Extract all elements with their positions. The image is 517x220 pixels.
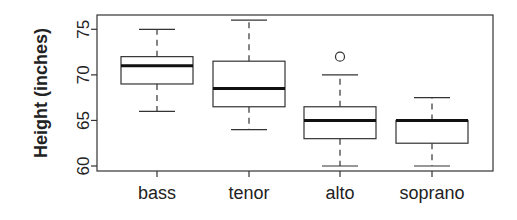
iqr-box — [121, 57, 193, 84]
y-tick-label: 65 — [74, 111, 93, 130]
x-tick-label-soprano: soprano — [399, 183, 464, 203]
plot-border — [97, 15, 493, 171]
chart-canvas: 60657075 basstenoraltosoprano Height (in… — [0, 0, 517, 220]
iqr-box — [213, 61, 285, 107]
iqr-box — [304, 107, 376, 139]
outlier-point — [336, 52, 345, 61]
box-tenor — [213, 20, 285, 129]
boxplot-chart: 60657075 basstenoraltosoprano Height (in… — [0, 0, 517, 220]
box-soprano — [396, 98, 468, 166]
x-axis: basstenoraltosoprano — [138, 171, 465, 203]
box-alto — [304, 52, 376, 166]
box-bass — [121, 29, 193, 111]
y-tick-label: 60 — [74, 157, 93, 176]
y-axis: 60657075 — [74, 20, 97, 176]
x-tick-label-tenor: tenor — [228, 183, 269, 203]
y-tick-label: 75 — [74, 20, 93, 39]
x-tick-label-alto: alto — [325, 183, 354, 203]
iqr-box — [396, 120, 468, 143]
plot-frame — [97, 15, 493, 171]
y-tick-label: 70 — [74, 65, 93, 84]
y-axis-label: Height (inches) — [31, 28, 51, 158]
x-tick-label-bass: bass — [138, 183, 176, 203]
boxes — [121, 20, 468, 166]
